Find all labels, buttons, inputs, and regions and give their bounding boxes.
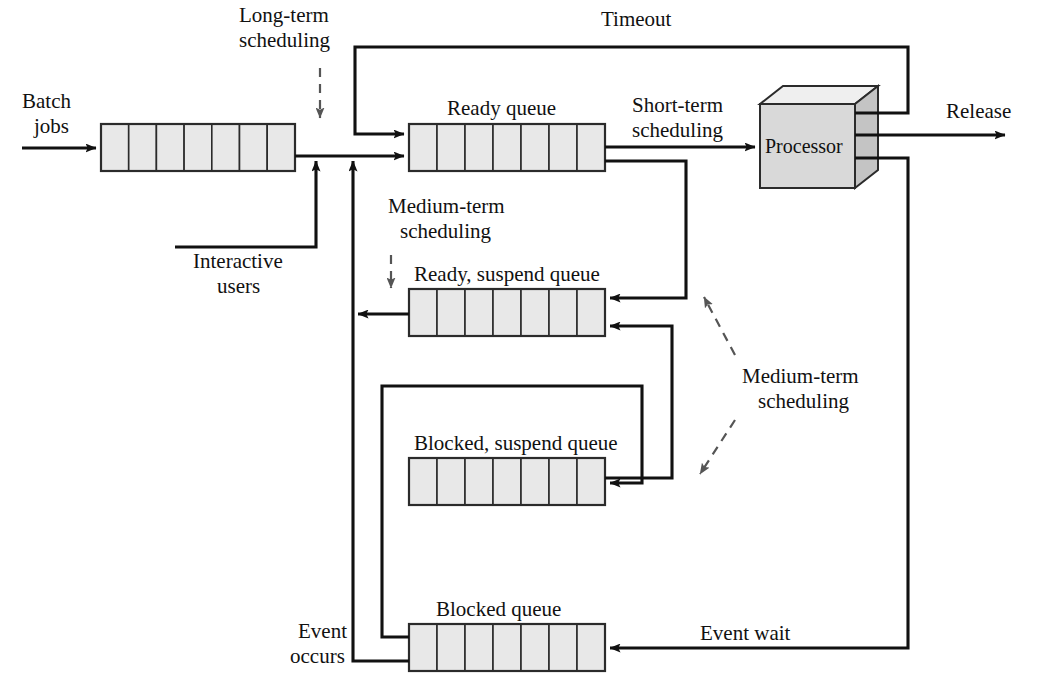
ready-queue-label: Ready queue (447, 96, 556, 120)
interactive-users-arrow (175, 161, 316, 247)
batch-jobs-label-line1: Batch (22, 89, 71, 113)
ready-suspend-queue (409, 289, 605, 336)
long-term-scheduling-label-line1: Long-term (239, 3, 329, 27)
medium-term-scheduling-right-label-line2: scheduling (758, 389, 849, 413)
ready-queue (409, 124, 605, 171)
blocked-queue (409, 624, 605, 671)
event-wait-label: Event wait (700, 621, 791, 645)
long-term-scheduling-label-line2: scheduling (239, 28, 330, 52)
batch-queue (101, 124, 295, 171)
blocked-suspend-queue-label: Blocked, suspend queue (414, 431, 618, 455)
blocked-queue-label: Blocked queue (436, 597, 561, 621)
batch-jobs-label-line2: jobs (33, 114, 69, 138)
short-term-scheduling-label-line2: scheduling (632, 118, 723, 142)
medium-term-scheduling-left-label-line1: Medium-term (388, 194, 505, 218)
medium-term-scheduling-upper-arrow (704, 297, 735, 355)
medium-term-scheduling-left-label-line2: scheduling (400, 219, 491, 243)
blocked-suspend-queue (409, 458, 605, 505)
ready-to-suspend-arrow (605, 161, 686, 298)
event-occurs-label-line2: occurs (290, 644, 345, 668)
processor-label: Processor (765, 135, 843, 157)
blocked-suspend-to-ready-suspend-arrow (605, 326, 672, 478)
short-term-scheduling-label-line1: Short-term (632, 93, 723, 117)
figure-canvas: Batch jobs Long-term scheduling Timeout … (0, 0, 1039, 696)
queueing-diagram-svg: Batch jobs Long-term scheduling Timeout … (0, 0, 1039, 696)
medium-term-scheduling-right-label-line1: Medium-term (742, 364, 859, 388)
medium-term-scheduling-lower-arrow (700, 420, 735, 474)
timeout-label: Timeout (601, 7, 672, 31)
ready-suspend-queue-label: Ready, suspend queue (414, 262, 600, 286)
release-label: Release (946, 99, 1011, 123)
interactive-users-label-line1: Interactive (193, 249, 283, 273)
interactive-users-label-line2: users (217, 274, 260, 298)
event-occurs-label-line1: Event (298, 619, 347, 643)
